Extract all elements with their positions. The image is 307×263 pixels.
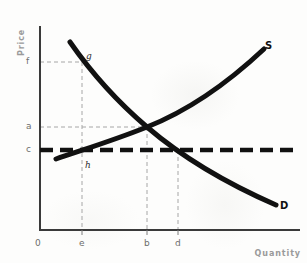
y-tick-label-f: f: [26, 56, 29, 66]
x-tick-label-d: d: [175, 238, 181, 248]
y-tick-label-a: a: [26, 121, 32, 131]
x-tick-label-b: b: [144, 238, 150, 248]
x-tick-label-e: e: [79, 238, 85, 248]
supply-curve-label: S: [265, 40, 272, 51]
y-axis-title: Price: [17, 13, 26, 73]
point-label-g: g: [86, 51, 92, 61]
x-axis-title: Quantity: [255, 249, 301, 258]
x-tick-label-origin: 0: [35, 238, 41, 248]
supply-demand-chart: Price Quantity f a c 0 e b d g h S D: [0, 0, 307, 263]
y-tick-label-c: c: [26, 144, 31, 154]
chart-canvas: [0, 0, 307, 263]
demand-curve-label: D: [280, 200, 288, 211]
point-label-h: h: [85, 160, 91, 170]
